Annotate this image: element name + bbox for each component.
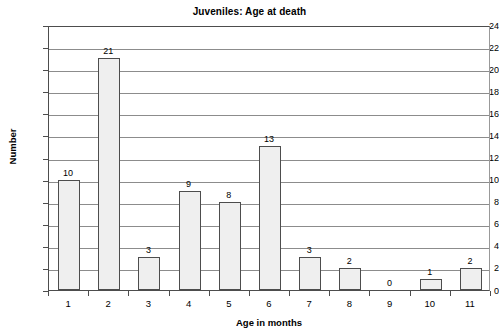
bar[interactable] xyxy=(299,257,321,290)
bar-value-label: 13 xyxy=(249,135,289,144)
x-axis-title: Age in months xyxy=(48,317,490,328)
bar-chart: Juveniles: Age at death Number Age in mo… xyxy=(0,0,499,336)
bar[interactable] xyxy=(179,191,201,290)
x-tick-mark xyxy=(329,291,330,296)
bar-value-label: 8 xyxy=(209,191,249,200)
x-tick-mark xyxy=(88,291,89,296)
bar-value-label: 21 xyxy=(88,47,128,56)
x-tick-mark xyxy=(369,291,370,296)
x-tick-mark xyxy=(249,291,250,296)
x-tick-mark xyxy=(128,291,129,296)
x-tick-label: 8 xyxy=(329,299,369,309)
bar[interactable] xyxy=(259,146,281,290)
bar-value-label: 2 xyxy=(329,257,369,266)
x-tick-label: 3 xyxy=(128,299,168,309)
x-tick-mark xyxy=(209,291,210,296)
plot-area xyxy=(48,26,490,291)
x-tick-mark xyxy=(48,291,49,296)
bar[interactable] xyxy=(58,180,80,290)
bar[interactable] xyxy=(420,279,442,290)
x-tick-label: 4 xyxy=(169,299,209,309)
bar-value-label: 2 xyxy=(450,257,490,266)
y-axis-title: Number xyxy=(7,117,18,177)
x-tick-mark xyxy=(410,291,411,296)
x-tick-label: 7 xyxy=(289,299,329,309)
bar[interactable] xyxy=(138,257,160,290)
bar[interactable] xyxy=(460,268,482,290)
bar[interactable] xyxy=(219,202,241,290)
x-tick-label: 5 xyxy=(209,299,249,309)
bar-value-label: 0 xyxy=(370,279,410,288)
x-tick-mark xyxy=(169,291,170,296)
x-tick-mark xyxy=(289,291,290,296)
bar-value-label: 3 xyxy=(128,246,168,255)
x-tick-mark xyxy=(450,291,451,296)
x-tick-label: 9 xyxy=(370,299,410,309)
bar-value-label: 9 xyxy=(169,180,209,189)
bar[interactable] xyxy=(339,268,361,290)
x-tick-label: 1 xyxy=(48,299,88,309)
x-tick-mark xyxy=(490,291,491,296)
bar[interactable] xyxy=(98,58,120,290)
bar-value-label: 10 xyxy=(48,169,88,178)
bar-value-label: 1 xyxy=(410,268,450,277)
chart-title: Juveniles: Age at death xyxy=(0,6,499,17)
x-tick-label: 11 xyxy=(450,299,490,309)
bar-value-label: 3 xyxy=(289,246,329,255)
x-tick-label: 10 xyxy=(410,299,450,309)
x-tick-label: 6 xyxy=(249,299,289,309)
x-tick-label: 2 xyxy=(88,299,128,309)
